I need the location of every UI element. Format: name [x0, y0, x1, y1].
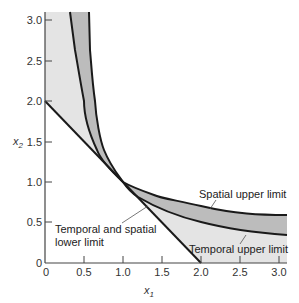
chart: 0 0.5 1.0 1.5 2.0 2.5 3.0 0 0.5 1.0 1.5 …: [0, 0, 299, 303]
y-tick-labels: 0 0.5 1.0 1.5 2.0 2.5 3.0: [27, 14, 42, 269]
svg-text:0.5: 0.5: [76, 266, 91, 278]
spatial-upper-label: Spatial upper limit: [199, 188, 286, 200]
svg-text:1.0: 1.0: [27, 176, 42, 188]
spatial-upper-limit-curve: [89, 12, 287, 215]
svg-text:1.5: 1.5: [154, 266, 169, 278]
svg-text:3.0: 3.0: [27, 14, 42, 26]
temporal-upper-label: Temporal upper limit: [189, 243, 288, 255]
svg-text:2.5: 2.5: [27, 55, 42, 67]
x-axis-label: x1: [143, 284, 154, 299]
lower-limit-label-line1: Temporal and spatial: [55, 223, 157, 235]
svg-text:0: 0: [36, 257, 42, 269]
svg-text:2.0: 2.0: [193, 266, 208, 278]
svg-text:3.0: 3.0: [271, 266, 286, 278]
svg-text:1.5: 1.5: [27, 136, 42, 148]
svg-text:0.5: 0.5: [27, 216, 42, 228]
svg-text:2.0: 2.0: [27, 95, 42, 107]
svg-text:0: 0: [43, 266, 49, 278]
x-tick-labels: 0 0.5 1.0 1.5 2.0 2.5 3.0: [43, 266, 287, 278]
svg-text:2.5: 2.5: [232, 266, 247, 278]
y-axis-label: x2: [12, 135, 24, 150]
svg-text:1.0: 1.0: [115, 266, 130, 278]
lower-limit-label-line2: lower limit: [55, 236, 104, 248]
lower-limit-leader: [122, 206, 148, 223]
